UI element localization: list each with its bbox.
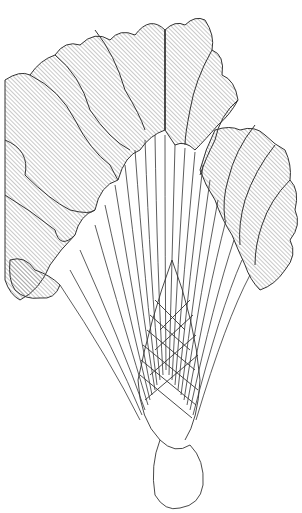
plant-illustration <box>0 0 302 513</box>
leaf-left <box>5 24 165 300</box>
leaves <box>5 18 298 300</box>
illustration-canvas <box>0 0 302 513</box>
braided-base <box>138 260 200 440</box>
bulb <box>153 440 203 509</box>
